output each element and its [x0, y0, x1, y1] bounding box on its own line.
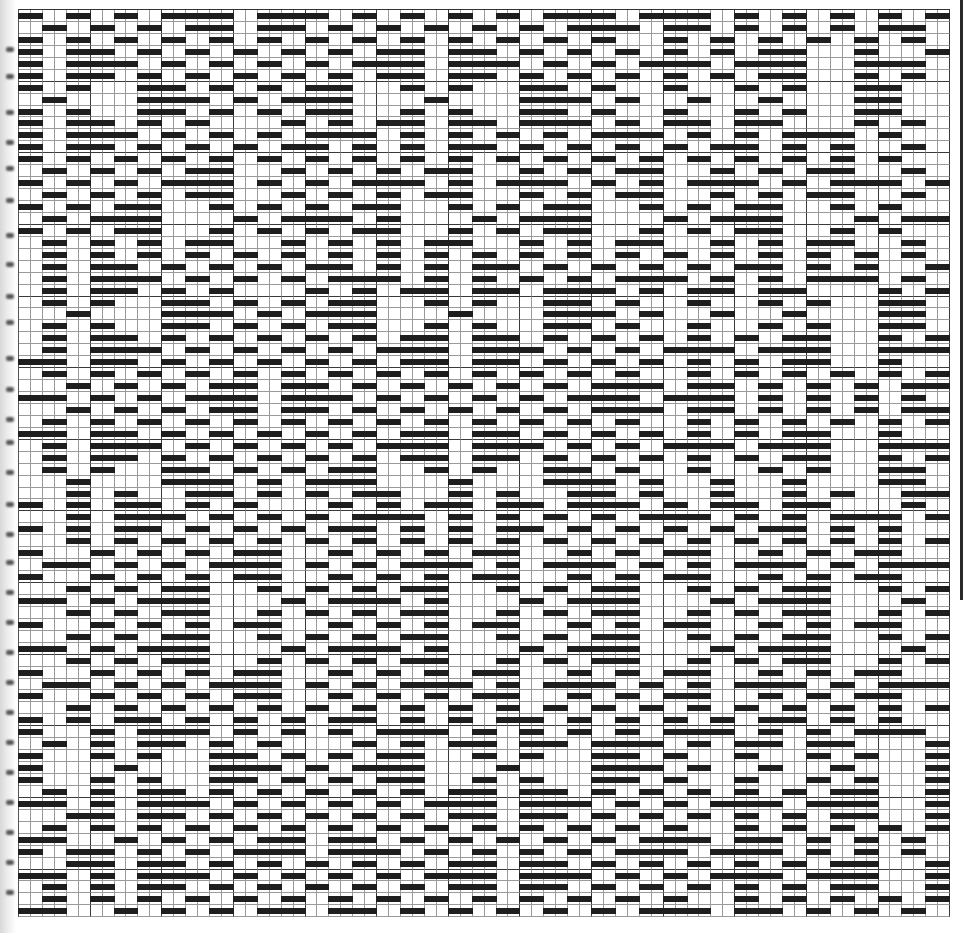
grid-cell-filled [317, 607, 329, 619]
grid-cell-filled [914, 308, 926, 320]
grid-cell-empty [377, 858, 389, 870]
grid-cell-filled [843, 129, 855, 141]
grid-cell-empty [282, 881, 294, 893]
grid-cell-empty [449, 344, 461, 356]
grid-cell-empty [282, 786, 294, 798]
grid-cell-empty [389, 320, 401, 332]
grid-cell-empty [735, 285, 747, 297]
grid-cell-empty [43, 607, 55, 619]
grid-cell-filled [150, 344, 162, 356]
grid-cell-empty [771, 750, 783, 762]
grid-cell-empty [520, 404, 532, 416]
grid-cell-filled [914, 22, 926, 34]
grid-cell-empty [282, 535, 294, 547]
grid-cell-filled [174, 332, 186, 344]
grid-cell-filled [222, 428, 234, 440]
grid-cell-empty [449, 464, 461, 476]
grid-cell-empty [843, 643, 855, 655]
grid-cell-filled [103, 141, 115, 153]
grid-cell-filled [79, 476, 91, 488]
grid-cell-empty [723, 320, 735, 332]
grid-cell-filled [867, 70, 879, 82]
grid-cell-empty [831, 631, 843, 643]
grid-cell-empty [138, 129, 150, 141]
grid-cell-empty [162, 213, 174, 225]
grid-cell-filled [198, 249, 210, 261]
grid-cell-empty [353, 344, 365, 356]
grid-cell-empty [711, 535, 723, 547]
grid-cell-empty [640, 523, 652, 535]
grid-cell-empty [783, 273, 795, 285]
grid-cell-empty [855, 714, 867, 726]
grid-cell-empty [497, 643, 509, 655]
grid-cell-empty [688, 499, 700, 511]
grid-cell-empty [115, 881, 127, 893]
grid-cell-filled [413, 153, 425, 165]
grid-cell-filled [413, 46, 425, 58]
grid-cell-empty [67, 619, 79, 631]
grid-cell-empty [831, 547, 843, 559]
grid-cell-empty [294, 690, 306, 702]
grid-cell-filled [795, 881, 807, 893]
grid-cell-empty [902, 332, 914, 344]
grid-cell-filled [294, 237, 306, 249]
grid-cell-empty [186, 34, 198, 46]
grid-cell-filled [652, 356, 664, 368]
grid-cell-filled [413, 750, 425, 762]
grid-cell-empty [938, 499, 950, 511]
grid-cell-filled [628, 798, 640, 810]
grid-cell-filled [699, 762, 711, 774]
grid-cell-filled [150, 690, 162, 702]
grid-cell-empty [902, 762, 914, 774]
grid-cell-empty [79, 94, 91, 106]
grid-cell-empty [819, 308, 831, 320]
grid-cell-filled [819, 297, 831, 309]
grid-cell-empty [544, 523, 556, 535]
grid-cell-filled [938, 416, 950, 428]
grid-cell-empty [759, 488, 771, 500]
grid-cell-empty [497, 726, 509, 738]
grid-cell-filled [365, 905, 377, 917]
grid-cell-empty [258, 273, 270, 285]
grid-cell-filled [508, 129, 520, 141]
grid-cell-empty [855, 165, 867, 177]
grid-cell-empty [174, 762, 186, 774]
grid-cell-empty [138, 261, 150, 273]
grid-cell-empty [926, 237, 938, 249]
grid-cell-empty [67, 834, 79, 846]
grid-cell-filled [723, 488, 735, 500]
grid-cell-filled [103, 165, 115, 177]
grid-cell-empty [890, 798, 902, 810]
grid-cell-filled [150, 201, 162, 213]
grid-cell-filled [198, 583, 210, 595]
grid-cell-empty [138, 834, 150, 846]
grid-cell-empty [926, 643, 938, 655]
grid-cell-filled [365, 714, 377, 726]
grid-cell-filled [365, 428, 377, 440]
grid-cell-empty [389, 308, 401, 320]
grid-cell-empty [735, 189, 747, 201]
grid-cell-filled [556, 106, 568, 118]
grid-cell-filled [532, 46, 544, 58]
grid-cell-empty [616, 476, 628, 488]
grid-cell-filled [103, 416, 115, 428]
grid-cell-empty [329, 452, 341, 464]
grid-cell-empty [103, 106, 115, 118]
grid-cell-empty [306, 189, 318, 201]
grid-cell-filled [389, 547, 401, 559]
grid-cell-empty [735, 440, 747, 452]
grid-cell-empty [282, 667, 294, 679]
grid-cell-empty [544, 416, 556, 428]
grid-cell-empty [711, 571, 723, 583]
grid-cell-empty [138, 583, 150, 595]
grid-cell-filled [150, 213, 162, 225]
grid-cell-empty [91, 201, 103, 213]
grid-cell-empty [783, 750, 795, 762]
grid-cell-filled [126, 834, 138, 846]
grid-cell-empty [67, 22, 79, 34]
grid-cell-filled [126, 285, 138, 297]
grid-cell-filled [294, 905, 306, 917]
grid-cell-empty [43, 846, 55, 858]
grid-cell-filled [222, 177, 234, 189]
grid-cell-filled [31, 34, 43, 46]
